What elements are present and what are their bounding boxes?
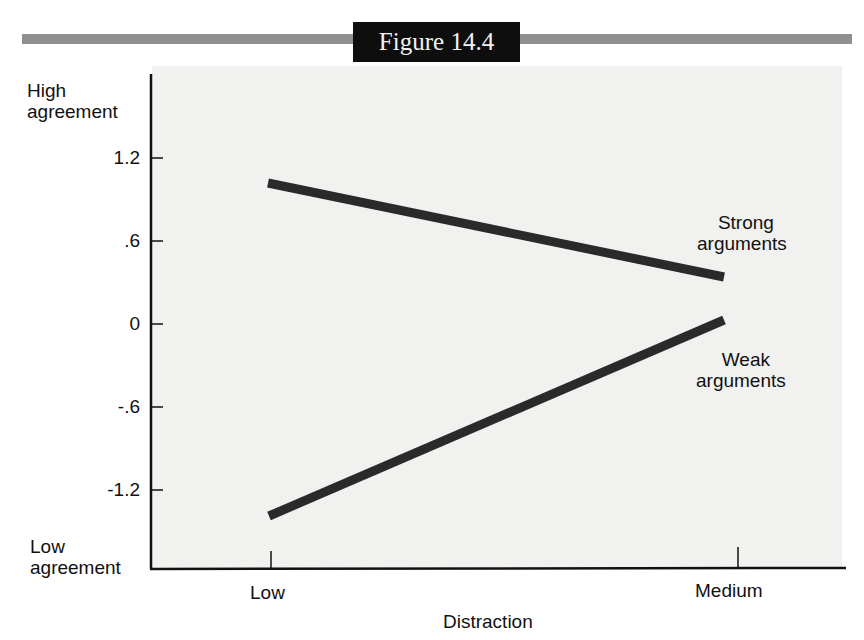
y-axis-high-label: High agreement [27,80,118,122]
y-tick-label: 0 [80,313,140,335]
x-tick-marks [271,547,738,569]
y-axis-low-label: Low agreement [30,536,121,578]
y-tick-marks [152,158,163,490]
legend-weak-arguments: Weak arguments [696,349,786,391]
y-tick-label: 1.2 [80,147,140,169]
x-axis-title: Distraction [443,611,533,632]
y-tick-label: .6 [80,230,140,252]
y-tick-label: -.6 [80,396,140,418]
legend-strong-arguments: Strong arguments [697,212,787,254]
series-strong-arguments [268,183,724,277]
y-tick-label: -1.2 [80,479,140,501]
x-tick-label-low: Low [250,582,285,603]
x-tick-label-medium: Medium [695,580,763,601]
x-axis [150,568,846,569]
series-weak-arguments [269,320,724,516]
